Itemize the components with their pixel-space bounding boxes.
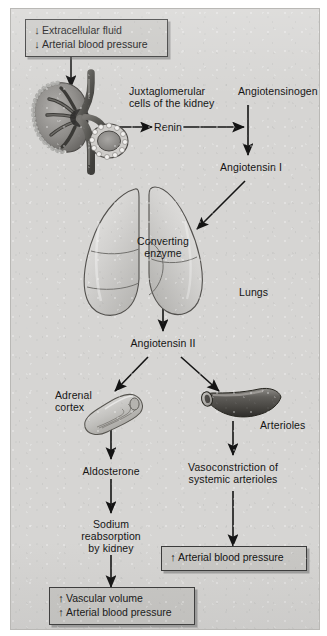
outcome-volume-line-2: ↑ Arterial blood pressure (56, 606, 187, 620)
increased-arterial-pressure-box: ↑ Arterial blood pressure (161, 546, 307, 571)
figure-page: Juxtaglomerular cells of the kidney Angi… (0, 0, 327, 636)
arrow-angiotensin-ii-to-arterioles (181, 357, 219, 391)
vasoconstriction-label-line1: Vasoconstriction of (188, 461, 278, 473)
stimulus-text-1: Extracellular fluid (42, 24, 122, 38)
arrow-up-icon: ↑ (56, 606, 66, 620)
angiotensin-ii-label: Angiotensin II (130, 337, 195, 349)
angiotensinogen-label: Angiotensinogen (238, 85, 318, 97)
juxtaglomerular-apparatus-illustration (25, 67, 135, 175)
stimulus-line-1: ↓ Extracellular fluid (32, 24, 160, 38)
arrow-angiotensin-ii-to-adrenal-cortex (115, 357, 148, 391)
arrow-up-icon: ↑ (168, 551, 178, 565)
outcome-volume-text-2: Arterial blood pressure (66, 606, 172, 620)
juxtaglomerular-label-line1: Juxtaglomerular (129, 85, 205, 97)
arterioles-label: Arterioles (260, 419, 305, 431)
adrenal-cortex-label-line1: Adrenal (55, 389, 92, 401)
angiotensin-i-label: Angiotensin I (220, 161, 282, 173)
sodium-reabsorption-label-line2: reabsorption (81, 530, 141, 542)
stimulus-text-2: Arterial blood pressure (42, 38, 148, 52)
outcome-pressure-text-1: Arterial blood pressure (178, 551, 284, 565)
decreased-fluid-and-pressure-box: ↓ Extracellular fluid ↓ Arterial blood p… (25, 19, 168, 57)
arrow-down-icon: ↓ (32, 24, 42, 38)
arrow-down-icon: ↓ (32, 38, 42, 52)
outcome-volume-line-1: ↑ Vascular volume (56, 592, 187, 606)
sodium-reabsorption-label-line1: Sodium (93, 518, 129, 530)
renin-label: Renin (154, 121, 182, 133)
lungs-label: Lungs (239, 286, 268, 298)
juxtaglomerular-label-line2: cells of the kidney (129, 97, 214, 109)
diagram-panel: Juxtaglomerular cells of the kidney Angi… (10, 8, 320, 630)
adrenal-cortex-label-line2: cortex (55, 401, 84, 413)
converting-enzyme-label-line2: enzyme (144, 247, 181, 259)
increased-volume-and-pressure-box: ↑ Vascular volume ↑ Arterial blood press… (49, 587, 195, 625)
aldosterone-label: Aldosterone (82, 465, 139, 477)
arrow-up-icon: ↑ (56, 592, 66, 606)
outcome-pressure-line-1: ↑ Arterial blood pressure (168, 551, 299, 565)
sodium-reabsorption-label-line3: by kidney (88, 542, 133, 554)
outcome-volume-text-1: Vascular volume (66, 592, 143, 606)
converting-enzyme-label-line1: Converting (137, 235, 189, 247)
vasoconstriction-label-line2: systemic arterioles (189, 473, 278, 485)
stimulus-line-2: ↓ Arterial blood pressure (32, 38, 160, 52)
